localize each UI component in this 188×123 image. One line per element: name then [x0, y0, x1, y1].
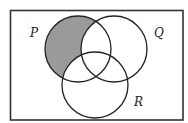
venn-diagram: P Q R: [0, 0, 188, 123]
label-r: R: [133, 95, 143, 109]
label-p: P: [29, 26, 39, 40]
label-q: Q: [154, 26, 164, 40]
